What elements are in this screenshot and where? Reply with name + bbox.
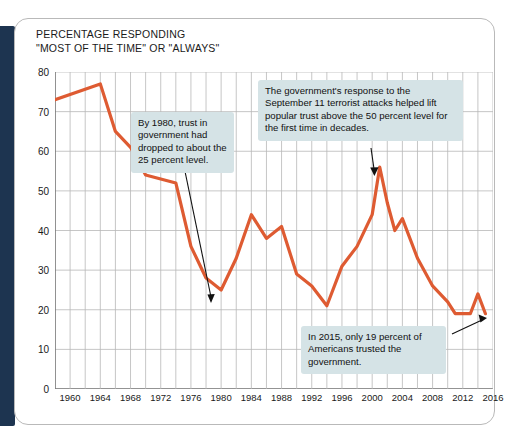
y-tick-label-70: 70 (38, 106, 49, 117)
x-tick-label-2016: 2016 (482, 392, 503, 403)
x-tick-label-1968: 1968 (120, 392, 141, 403)
x-tick-label-1980: 1980 (211, 392, 232, 403)
y-tick-label-60: 60 (38, 146, 49, 157)
title-line-1: PERCENTAGE RESPONDING (36, 28, 185, 40)
x-tick-label-2000: 2000 (362, 392, 383, 403)
x-tick-label-1988: 1988 (271, 392, 292, 403)
y-tick-label-40: 40 (38, 225, 49, 236)
title-line-2: "MOST OF THE TIME" OR "ALWAYS" (36, 42, 220, 54)
y-tick-label-80: 80 (38, 67, 49, 78)
x-tick-label-2004: 2004 (392, 392, 413, 403)
x-tick-label-1984: 1984 (241, 392, 262, 403)
x-tick-label-1972: 1972 (150, 392, 171, 403)
y-tick-label-30: 30 (38, 265, 49, 276)
page-spine-accent (0, 26, 15, 426)
x-tick-label-1976: 1976 (180, 392, 201, 403)
x-tick-label-1996: 1996 (331, 392, 352, 403)
page-title: PERCENTAGE RESPONDING "MOST OF THE TIME"… (36, 27, 220, 55)
x-axis-labels: 1960196419681972197619801984198819921996… (55, 392, 507, 408)
x-tick-label-1960: 1960 (60, 392, 81, 403)
annotation-september-11: The government's response to the Septemb… (258, 80, 463, 141)
x-tick-label-2008: 2008 (422, 392, 443, 403)
y-axis-labels: 01020304050607080 (18, 72, 49, 389)
x-tick-label-2012: 2012 (452, 392, 473, 403)
chart-page: PERCENTAGE RESPONDING "MOST OF THE TIME"… (0, 0, 525, 448)
y-tick-label-0: 0 (43, 384, 49, 395)
y-tick-label-20: 20 (38, 304, 49, 315)
y-tick-label-10: 10 (38, 344, 49, 355)
x-tick-label-1964: 1964 (90, 392, 111, 403)
annotation-2015: In 2015, only 19 percent of Americans tr… (301, 326, 446, 374)
annotation-1980: By 1980, trust in government had dropped… (131, 112, 234, 173)
x-tick-label-1992: 1992 (301, 392, 322, 403)
y-tick-label-50: 50 (38, 185, 49, 196)
